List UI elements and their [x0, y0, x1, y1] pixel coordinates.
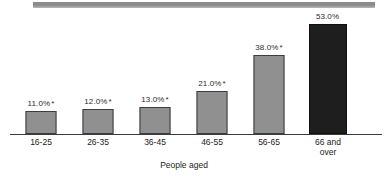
x-tick-label-1: 26-35: [69, 137, 127, 147]
bar-2: [140, 107, 171, 134]
x-tick-label-5-line1: 66 and: [299, 137, 357, 147]
significance-asterisk-4: *: [278, 43, 282, 52]
bar-value-1: 12.0%*: [84, 97, 111, 106]
bar-1: [83, 109, 114, 134]
bar-value-0: 11.0%*: [28, 99, 55, 108]
x-tick-label-3: 46-55: [183, 137, 241, 147]
bar-4: [254, 55, 285, 134]
bar-5: [309, 24, 347, 134]
bar-value-2: 13.0%*: [141, 95, 168, 104]
x-axis-title: People aged: [0, 160, 390, 170]
significance-asterisk-5: [339, 12, 340, 21]
x-tick-label-3-line1: 46-55: [183, 137, 241, 147]
bar-0: [26, 111, 57, 134]
bar-group-4: 38.0%*: [246, 10, 292, 134]
bar-group-1: 12.0%*: [75, 10, 121, 134]
significance-asterisk-1: *: [107, 97, 111, 106]
bar-group-0: 11.0%*: [18, 10, 64, 134]
bar-value-4: 38.0%*: [255, 43, 282, 52]
chart-figure: 11.0%* 12.0%* 13.0%* 21.0%* 38.0%* 53.0%…: [0, 0, 390, 190]
significance-asterisk-0: *: [50, 99, 54, 108]
x-tick-label-2: 36-45: [126, 137, 184, 147]
x-tick-label-5-line2: over: [299, 147, 357, 157]
x-tick-label-0-line1: 16-25: [12, 137, 70, 147]
x-tick-label-5: 66 andover: [299, 137, 357, 157]
significance-asterisk-3: *: [221, 79, 225, 88]
bar-value-5: 53.0%: [316, 12, 340, 21]
bar-group-5: 53.0%: [305, 10, 351, 134]
plot-area: 11.0%* 12.0%* 13.0%* 21.0%* 38.0%* 53.0%: [0, 8, 390, 136]
bar-group-2: 13.0%*: [132, 10, 178, 134]
x-axis-title-text: People aged: [160, 160, 208, 170]
x-tick-label-1-line1: 26-35: [69, 137, 127, 147]
bar-value-3: 21.0%*: [198, 79, 225, 88]
x-tick-label-2-line1: 36-45: [126, 137, 184, 147]
x-tick-label-4: 56-65: [240, 137, 298, 147]
bar-3: [197, 91, 228, 134]
x-tick-label-4-line1: 56-65: [240, 137, 298, 147]
bar-group-3: 21.0%*: [189, 10, 235, 134]
x-tick-label-0: 16-25: [12, 137, 70, 147]
significance-asterisk-2: *: [164, 95, 168, 104]
x-axis-line: [10, 134, 382, 135]
